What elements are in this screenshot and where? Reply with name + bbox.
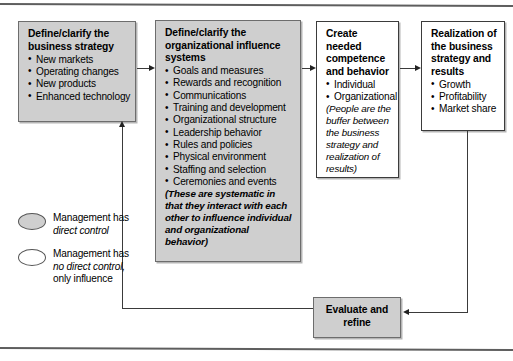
connector-competence-to-realization-line <box>400 68 416 69</box>
list-item: Goals and measures <box>165 65 293 77</box>
filled-ellipse-icon <box>18 213 46 230</box>
arrowhead-left-icon <box>403 309 409 315</box>
list-item: Organizational <box>326 91 391 103</box>
arrowhead-right-icon <box>310 65 316 71</box>
box-heading: Evaluate and refine <box>318 304 396 330</box>
box-heading: Define/clarify the business strategy <box>28 28 128 53</box>
connector-realization-down-line <box>467 131 468 313</box>
box-heading: Create needed competence and behavior <box>326 28 391 78</box>
box-bullet-list: Goals and measures Rewards and recogniti… <box>165 65 293 188</box>
arrowhead-right-icon <box>149 65 155 71</box>
list-item: Rewards and recognition <box>165 77 293 89</box>
box-bullet-list: Growth Profitability Market share <box>431 79 497 116</box>
legend-item-direct-control: Management has direct control <box>18 212 148 237</box>
list-item: Profitability <box>431 91 497 103</box>
box-evaluate-and-refine[interactable]: Evaluate and refine <box>313 297 401 338</box>
list-item: Operating changes <box>28 66 128 78</box>
box-heading: Realization of the business strategy and… <box>431 28 497 78</box>
legend-label: Management has no direct control, only i… <box>53 248 129 286</box>
box-create-needed-competence[interactable]: Create needed competence and behavior In… <box>316 21 399 178</box>
legend-line-1: Management has <box>53 248 129 259</box>
legend-line-1: Management has <box>53 212 129 223</box>
box-bullet-list: Individual Organizational <box>326 79 391 104</box>
legend-line-2: no direct control, <box>53 261 125 272</box>
list-item: New products <box>28 78 128 90</box>
list-item: Organizational structure <box>165 114 293 126</box>
list-item: Ceremonies and events <box>165 176 293 188</box>
list-item: Staffing and selection <box>165 164 293 176</box>
box-note: (These are systematic in that they inter… <box>165 188 293 248</box>
list-item: Enhanced technology <box>28 91 128 103</box>
box-note: (People are the buffer between the busin… <box>326 103 391 175</box>
hollow-ellipse-icon <box>18 249 46 266</box>
list-item: Growth <box>431 79 497 91</box>
box-define-organizational-influence-systems[interactable]: Define/clarify the organizational influe… <box>155 20 301 262</box>
list-item: Rules and policies <box>165 139 293 151</box>
list-item: Training and development <box>165 102 293 114</box>
legend: Management has direct control Management… <box>18 212 148 297</box>
list-item: Leadership behavior <box>165 127 293 139</box>
arrowhead-right-icon <box>415 65 421 71</box>
legend-label: Management has direct control <box>53 212 129 237</box>
box-realization-of-business-strategy[interactable]: Realization of the business strategy and… <box>421 21 505 131</box>
process-flow-diagram: Define/clarify the business strategy New… <box>0 0 513 361</box>
list-item: Market share <box>431 103 497 115</box>
list-item: Individual <box>326 79 391 91</box>
top-divider-rule <box>0 3 513 7</box>
list-item: New markets <box>28 54 128 66</box>
box-bullet-list: New markets Operating changes New produc… <box>28 54 128 103</box>
connector-to-evaluate-line <box>408 312 468 313</box>
list-item: Communications <box>165 90 293 102</box>
box-heading: Define/clarify the organizational influe… <box>165 27 293 65</box>
legend-line-2: direct control <box>53 225 109 236</box>
list-item: Physical environment <box>165 151 293 163</box>
legend-line-3: only influence <box>53 273 113 284</box>
legend-item-no-direct-control: Management has no direct control, only i… <box>18 248 148 286</box>
connector-evaluate-feedback-line <box>122 308 313 309</box>
box-define-business-strategy[interactable]: Define/clarify the business strategy New… <box>18 21 136 122</box>
arrowhead-up-icon <box>119 121 125 127</box>
bottom-divider-rule <box>0 347 513 351</box>
